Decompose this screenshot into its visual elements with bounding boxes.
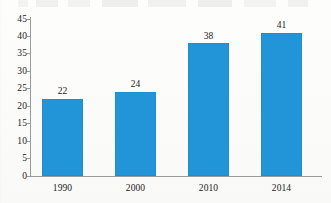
y-axis-tick-label: 20 xyxy=(17,101,27,112)
y-axis-tick-mark xyxy=(27,106,31,107)
y-axis-tick-label: 30 xyxy=(17,66,27,77)
y-axis-tick-mark xyxy=(27,141,31,142)
bar-2010 xyxy=(188,43,229,176)
y-axis-tick-45: 45 xyxy=(0,14,36,25)
y-axis-tick-mark xyxy=(27,53,31,54)
y-axis-tick-10: 10 xyxy=(0,136,36,147)
y-axis-tick-mark xyxy=(27,123,31,124)
x-axis-line xyxy=(30,176,322,177)
bar-1990 xyxy=(42,99,83,176)
y-axis-tick-label: 25 xyxy=(17,83,27,94)
y-axis-tick-label: 10 xyxy=(17,136,27,147)
y-axis-tick-25: 25 xyxy=(0,83,36,94)
bar-2014 xyxy=(261,33,302,176)
plot-area: 0 5 10 15 20 25 30 35 xyxy=(0,0,331,203)
x-axis-label-2010: 2010 xyxy=(188,182,229,194)
y-axis-tick-mark xyxy=(27,19,31,20)
y-axis-tick-label: 35 xyxy=(17,48,27,59)
y-axis-tick-40: 40 xyxy=(0,31,36,42)
bar-value-label-2010: 38 xyxy=(188,31,229,42)
y-axis-tick-mark xyxy=(27,71,31,72)
bar-chart-figure: 0 5 10 15 20 25 30 35 xyxy=(0,0,331,203)
y-axis-tick-label: 40 xyxy=(17,31,27,42)
y-axis-tick-mark xyxy=(27,158,31,159)
y-axis-tick-20: 20 xyxy=(0,101,36,112)
y-axis-tick-mark xyxy=(27,88,31,89)
y-axis-tick-mark xyxy=(27,36,31,37)
y-axis-tick-label: 15 xyxy=(17,118,27,129)
bar-2000 xyxy=(115,92,156,176)
y-axis-tick-30: 30 xyxy=(0,66,36,77)
bar-value-label-1990: 22 xyxy=(42,86,83,97)
y-axis-tick-15: 15 xyxy=(0,118,36,129)
x-axis-label-2000: 2000 xyxy=(115,182,156,194)
y-axis-tick-mark xyxy=(27,176,31,177)
y-axis-tick-35: 35 xyxy=(0,48,36,59)
bar-value-label-2000: 24 xyxy=(115,79,156,90)
bar-value-label-2014: 41 xyxy=(261,20,302,31)
y-axis-tick-label: 45 xyxy=(17,14,27,25)
x-axis-label-2014: 2014 xyxy=(261,182,302,194)
y-axis-tick-5: 5 xyxy=(0,153,36,164)
y-axis-tick-0: 0 xyxy=(0,171,36,182)
x-axis-label-1990: 1990 xyxy=(42,182,83,194)
